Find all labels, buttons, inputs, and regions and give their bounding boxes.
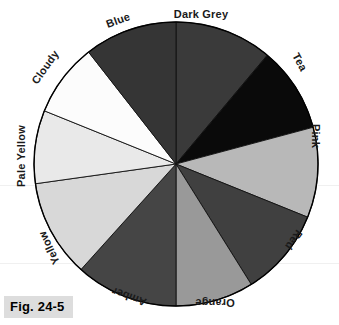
pie-slice-label: Dark Grey (174, 8, 228, 20)
figure-caption: Fig. 24-5 (4, 296, 73, 318)
pie-slice-label: Pale Yellow (15, 125, 27, 187)
figure-container: Dark GreyTeaPinkRedOrangeAmberYellowPale… (0, 0, 339, 325)
pie-slice-label: Orange (195, 297, 235, 309)
pie-slices-group (34, 22, 318, 306)
pie-slice-label: Pink (310, 124, 322, 148)
